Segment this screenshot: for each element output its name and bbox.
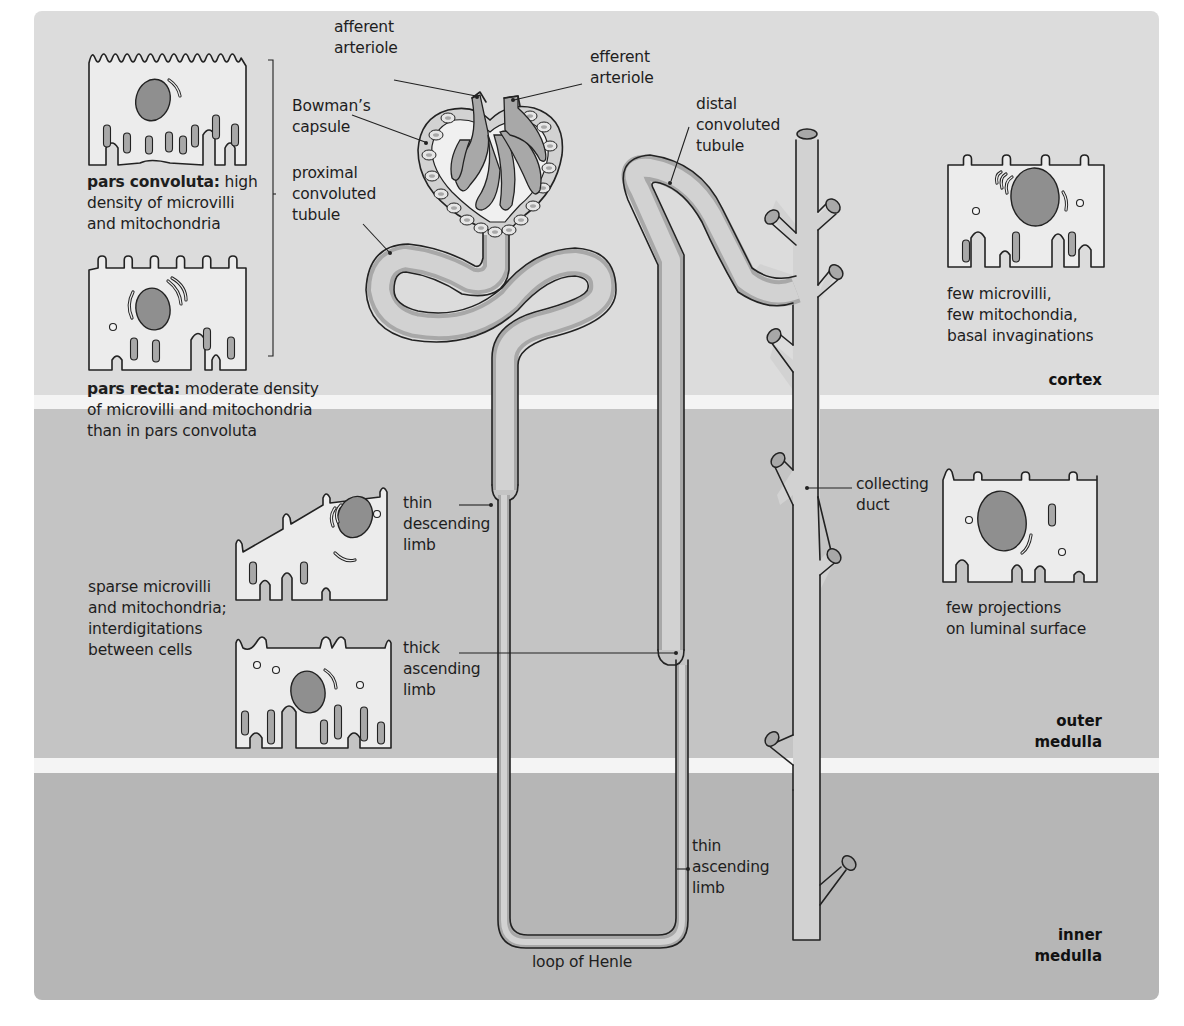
capsule-cell-nucleus (492, 230, 498, 234)
caption-distal-cell: few microvilli, few mitochondia, basal i… (947, 284, 1093, 347)
mitochondrion (321, 720, 328, 744)
vesicle (973, 208, 980, 215)
caption-loop-cells: sparse microvilli and mitochondria; inte… (88, 577, 227, 661)
zone-label-outer-medulla: outer medulla (1034, 711, 1102, 753)
label-thin-ascending-limb: thin ascending limb (692, 836, 769, 899)
capsule-cell-nucleus (547, 144, 553, 148)
zone-label-cortex: cortex (1048, 370, 1102, 391)
mitochondrion (335, 705, 342, 739)
mitochondrion (1013, 232, 1020, 262)
mitochondrion (250, 562, 257, 584)
mitochondrion (268, 710, 275, 744)
capsule-cell-nucleus (433, 133, 439, 137)
mitochondrion (124, 133, 131, 153)
mitochondrion (232, 124, 239, 146)
label-thick-ascending-limb: thick ascending limb (403, 638, 480, 701)
nephron-illustration (0, 0, 1184, 1026)
capsule-cell-nucleus (451, 206, 457, 210)
vesicle (357, 682, 364, 689)
caption-pars-recta-term: pars recta: (87, 380, 180, 398)
capsule-cell-nucleus (518, 218, 524, 222)
caption-pars-convoluta-term: pars convoluta: (87, 173, 220, 191)
mitochondrion (378, 722, 385, 744)
capsule-cell-nucleus (478, 226, 484, 230)
capsule-cell-nucleus (530, 204, 536, 208)
mitochondrion (192, 125, 199, 147)
capsule-cell-nucleus (429, 174, 435, 178)
capsule-cell-nucleus (541, 125, 547, 129)
nephron-diagram: afferent arteriole efferent arteriole Bo… (0, 0, 1184, 1026)
label-proximal-convoluted-tubule: proximal convoluted tubule (292, 163, 376, 226)
mitochondrion (213, 115, 220, 139)
mitochondrion (146, 136, 153, 154)
vesicle (1077, 200, 1084, 207)
thick-ascending-limb-cell (236, 637, 391, 748)
vesicle (254, 662, 261, 669)
vesicle (110, 324, 117, 331)
outer-inner-divider (34, 758, 1159, 773)
caption-collecting-cell: few projections on luminal surface (946, 598, 1086, 640)
vesicle (966, 517, 973, 524)
label-afferent-arteriole: afferent arteriole (334, 17, 398, 59)
mitochondrion (301, 562, 308, 584)
mitochondrion (228, 337, 235, 359)
label-efferent-arteriole: efferent arteriole (590, 47, 654, 89)
label-loop-of-henle: loop of Henle (532, 952, 632, 973)
capsule-cell-nucleus (445, 116, 451, 120)
duct-branch (797, 129, 817, 139)
capsule-cell-nucleus (438, 192, 444, 196)
mitochondrion (204, 328, 211, 350)
zone-label-inner-medulla: inner medulla (1034, 925, 1102, 967)
mitochondrion (166, 132, 173, 152)
pars-recta-cell (89, 256, 246, 370)
mitochondrion (361, 707, 368, 741)
capsule-cell-nucleus (546, 166, 552, 170)
mitochondrion (104, 125, 111, 147)
capsule-cell-nucleus (506, 228, 512, 232)
vesicle (374, 511, 381, 518)
caption-pars-convoluta: pars convoluta: high density of microvil… (87, 172, 258, 235)
caption-pars-recta: pars recta: moderate density of microvil… (87, 379, 319, 442)
vesicle (1059, 549, 1066, 556)
mitochondrion (153, 340, 160, 362)
mitochondrion (1049, 504, 1056, 526)
label-bowmans-capsule: Bowman’s capsule (292, 96, 371, 138)
label-thin-descending-limb: thin descending limb (403, 493, 490, 556)
capsule-cell-nucleus (464, 218, 470, 222)
mitochondrion (1069, 232, 1076, 256)
mitochondrion (180, 136, 187, 154)
label-distal-convoluted-tubule: distal convoluted tubule (696, 94, 780, 157)
vesicle (273, 667, 280, 674)
label-collecting-duct: collecting duct (856, 474, 929, 516)
capsule-cell-nucleus (426, 153, 432, 157)
mitochondrion (242, 711, 249, 735)
mitochondrion (963, 240, 970, 262)
mitochondrion (131, 338, 138, 360)
